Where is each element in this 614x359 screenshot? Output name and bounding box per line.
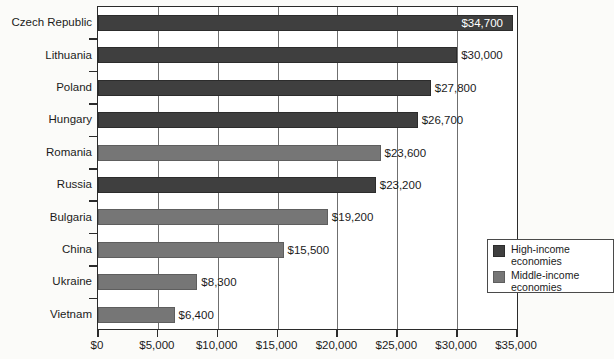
legend-swatch-high-income-icon <box>493 245 505 257</box>
x-axis-tick <box>217 330 219 337</box>
legend-item-high-income: High-income economies <box>493 244 608 267</box>
bar-row: $30,000 <box>98 39 517 71</box>
x-axis-tick <box>157 330 159 337</box>
bar <box>98 274 197 290</box>
bar <box>98 307 175 323</box>
category-label-vietnam: Vietnam <box>50 307 92 321</box>
category-label-china: China <box>62 242 92 256</box>
bar-row: $23,600 <box>98 137 517 169</box>
category-label-romania: Romania <box>46 145 92 159</box>
bar-row: $26,700 <box>98 104 517 136</box>
legend-label-middle-income: Middle-income economies <box>511 270 579 293</box>
x-axis-label: $15,000 <box>256 338 298 352</box>
bar-row: $8,300 <box>98 266 517 298</box>
bar-row: $15,500 <box>98 234 517 266</box>
bar-row: $19,200 <box>98 201 517 233</box>
category-label-czech-republic: Czech Republic <box>11 15 92 29</box>
y-axis-tick <box>89 38 97 40</box>
bar <box>98 177 376 193</box>
y-axis-tick <box>89 265 97 267</box>
legend-swatch-middle-income-icon <box>493 271 505 283</box>
bar-row: $23,200 <box>98 169 517 201</box>
legend-item-middle-income: Middle-income economies <box>493 270 608 293</box>
bar <box>98 15 513 31</box>
bar-value-label: $23,600 <box>385 144 427 162</box>
x-axis-tick <box>97 330 99 337</box>
x-axis-label: $35,000 <box>495 338 537 352</box>
x-axis-tick <box>456 330 458 337</box>
x-axis-label: $5,000 <box>139 338 174 352</box>
category-label-lithuania: Lithuania <box>45 48 92 62</box>
bar <box>98 209 328 225</box>
bar-value-label: $23,200 <box>380 176 422 194</box>
bar-value-label: $6,400 <box>179 306 214 324</box>
bar-row: $6,400 <box>98 299 517 331</box>
bar-row: $34,700 <box>98 7 517 39</box>
bar <box>98 242 284 258</box>
x-axis-label: $30,000 <box>435 338 477 352</box>
y-axis-tick <box>89 233 97 235</box>
y-axis-tick <box>89 168 97 170</box>
x-axis-label: $25,000 <box>375 338 417 352</box>
bar-value-label: $15,500 <box>288 241 330 259</box>
legend-label-high-income: High-income economies <box>511 244 570 267</box>
bar-value-label: $19,200 <box>332 208 374 226</box>
bar-row: $27,800 <box>98 72 517 104</box>
plot-area: $34,700$30,000$27,800$26,700$23,600$23,2… <box>97 6 518 330</box>
y-axis-tick <box>89 136 97 138</box>
bar-value-label: $26,700 <box>422 111 464 129</box>
category-label-bulgaria: Bulgaria <box>50 210 92 224</box>
category-label-russia: Russia <box>57 177 92 191</box>
y-axis-tick <box>89 71 97 73</box>
category-label-poland: Poland <box>56 80 92 94</box>
bar <box>98 47 457 63</box>
y-axis-tick <box>89 298 97 300</box>
bar-value-label: $8,300 <box>201 273 236 291</box>
x-axis-label: $0 <box>91 338 104 352</box>
bar <box>98 80 431 96</box>
x-axis-label: $10,000 <box>196 338 238 352</box>
y-axis-tick <box>89 103 97 105</box>
x-axis-tick <box>396 330 398 337</box>
category-label-hungary: Hungary <box>49 112 92 126</box>
x-axis-tick <box>336 330 338 337</box>
y-axis-tick <box>89 200 97 202</box>
bar-value-label: $30,000 <box>461 46 503 64</box>
chart-legend: High-income economies Middle-income econ… <box>487 239 614 293</box>
x-axis-tick <box>516 330 518 337</box>
category-label-ukraine: Ukraine <box>52 274 92 288</box>
bar-value-label: $34,700 <box>461 14 503 32</box>
bar <box>98 112 418 128</box>
bar <box>98 145 381 161</box>
x-axis-label: $20,000 <box>316 338 358 352</box>
x-axis-tick <box>277 330 279 337</box>
bar-value-label: $27,800 <box>435 79 477 97</box>
